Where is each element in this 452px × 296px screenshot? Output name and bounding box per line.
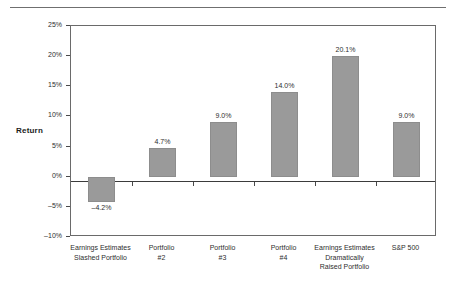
bar-value-label: 14.0%: [255, 82, 315, 90]
y-axis-tick-label: 10%: [26, 111, 62, 119]
x-axis-category-label: S&P 500: [368, 243, 443, 253]
x-axis-tick-mark: [132, 182, 133, 186]
category-label-line: Raised Portfolio: [307, 262, 382, 272]
bar: [149, 148, 176, 176]
bar-value-label: –4.2%: [72, 204, 132, 212]
bar: [210, 122, 237, 176]
chart-figure: Return 25%20%15%10%5%0%–5%–10% –4.2%4.7%…: [0, 0, 452, 296]
category-label-line: Dramatically: [307, 253, 382, 263]
y-axis-tick-label: 25%: [26, 21, 62, 29]
x-axis-tick-mark: [193, 182, 194, 186]
y-axis-tick-label: 5%: [26, 142, 62, 150]
plot-area: –4.2%4.7%9.0%14.0%20.1%9.0%: [70, 25, 436, 236]
y-axis-tick-mark: [66, 236, 70, 237]
bar-value-label: 9.0%: [194, 112, 254, 120]
y-axis-tick-label: –5%: [26, 202, 62, 210]
x-axis-tick-mark: [376, 182, 377, 186]
y-axis-tick-label: 0%: [26, 172, 62, 180]
x-axis-tick-mark: [315, 182, 316, 186]
bar: [88, 177, 115, 202]
y-axis-tick-label: 15%: [26, 81, 62, 89]
bar-value-label: 9.0%: [377, 112, 437, 120]
zero-baseline: [71, 181, 435, 182]
bar: [393, 122, 420, 176]
bar-value-label: 4.7%: [133, 138, 193, 146]
plot-inner: –4.2%4.7%9.0%14.0%20.1%9.0%: [71, 26, 435, 235]
y-axis-tick-label: –10%: [26, 232, 62, 240]
y-axis-title: Return: [16, 126, 43, 135]
bar: [332, 56, 359, 177]
header-rule: [10, 7, 446, 8]
bar: [271, 92, 298, 176]
category-label-line: S&P 500: [368, 243, 443, 253]
bar-value-label: 20.1%: [316, 46, 376, 54]
x-axis-tick-mark: [254, 182, 255, 186]
y-axis-tick-label: 20%: [26, 51, 62, 59]
